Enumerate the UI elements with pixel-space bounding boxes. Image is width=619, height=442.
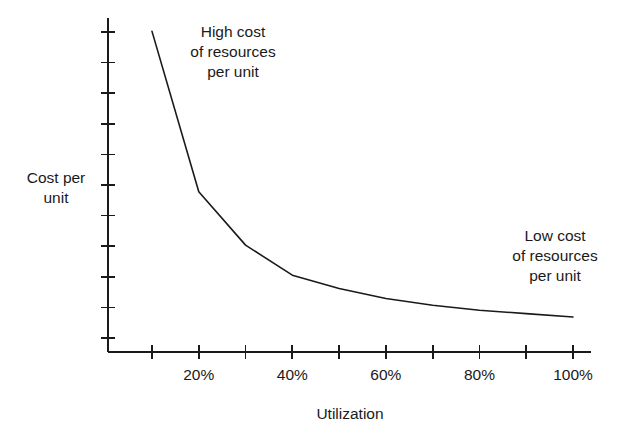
x-tick-label: 80% [449,366,509,384]
x-tick-label: 20% [169,366,229,384]
annotation-low-cost: Low cost of resources per unit [492,226,618,286]
chart-figure: Cost per unit Utilization High cost of r… [0,0,619,442]
x-axis-label: Utilization [280,404,420,424]
y-axis-label: Cost per unit [10,168,102,208]
x-tick-label: 100% [543,366,603,384]
x-tick-label: 40% [262,366,322,384]
x-tick-label: 60% [356,366,416,384]
annotation-high-cost: High cost of resources per unit [168,22,298,82]
